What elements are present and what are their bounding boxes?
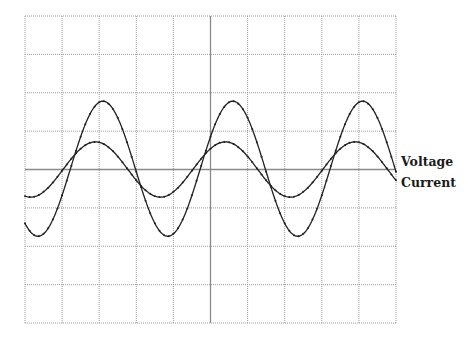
grid xyxy=(25,16,396,323)
current-label: Current xyxy=(401,177,456,190)
voltage-label: Voltage xyxy=(401,156,453,169)
oscilloscope-chart xyxy=(0,0,470,341)
